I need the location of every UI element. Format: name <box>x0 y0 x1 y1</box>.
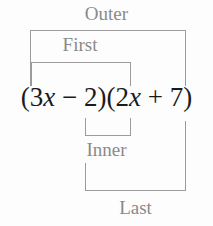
outer-bracket-right-leg <box>185 30 186 86</box>
inner-label: Inner <box>0 140 213 159</box>
expression-variable-2: x <box>129 82 141 112</box>
expression-open-paren-2: ( <box>107 82 116 112</box>
expression-variable-1: x <box>43 82 55 112</box>
expression-constant-1: 2 <box>84 82 98 112</box>
foil-method-diagram: Outer First (3x − 2)(2x + 7) Inner Last <box>0 0 213 226</box>
expression-operator-2: + <box>148 82 163 112</box>
expression-coefficient-1: 3 <box>30 82 44 112</box>
last-bracket-right-leg <box>185 121 186 191</box>
inner-bracket-left-leg <box>85 118 86 136</box>
expression-constant-2: 7 <box>170 82 184 112</box>
expression-open-paren-1: ( <box>21 82 30 112</box>
last-label: Last <box>54 198 213 217</box>
inner-bracket-right-leg <box>130 118 131 136</box>
algebraic-expression: (3x − 2)(2x + 7) <box>0 84 213 111</box>
first-bracket-top-line <box>31 62 131 63</box>
first-label: First <box>0 35 160 54</box>
expression-operator-1: − <box>62 82 77 112</box>
inner-bracket-bottom-line <box>85 135 131 136</box>
last-bracket-bottom-line <box>85 190 186 191</box>
outer-bracket-top-line <box>30 30 186 31</box>
expression-close-paren-2: ) <box>183 82 192 112</box>
last-bracket-left-leg <box>85 163 86 191</box>
outer-label: Outer <box>0 4 213 23</box>
expression-coefficient-2: 2 <box>116 82 130 112</box>
expression-close-paren-1: ) <box>98 82 107 112</box>
